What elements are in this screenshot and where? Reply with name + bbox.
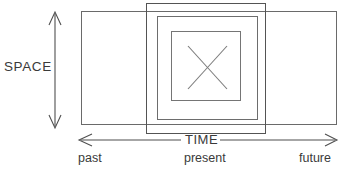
diagram-canvas bbox=[0, 0, 342, 171]
time-tick-label-present: present bbox=[184, 152, 226, 165]
x-mark-icon bbox=[188, 46, 227, 89]
outer-wide-rectangle bbox=[82, 12, 337, 125]
space-time-diagram: SPACE TIME past present future bbox=[0, 0, 342, 171]
time-tick-label-future: future bbox=[299, 152, 331, 165]
time-axis-label: TIME bbox=[185, 133, 218, 146]
time-tick-label-past: past bbox=[78, 152, 102, 165]
space-axis-label: SPACE bbox=[4, 60, 52, 74]
